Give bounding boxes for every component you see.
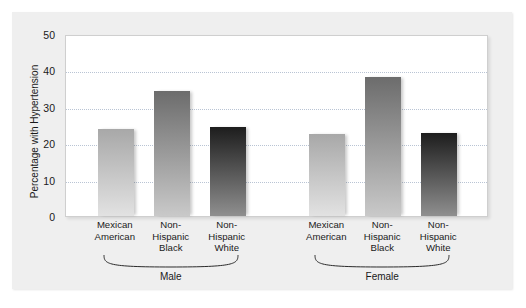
category-label: MexicanAmerican: [87, 219, 143, 242]
y-axis: 01020304050: [12, 35, 60, 217]
bar-female-mexican-american: [309, 134, 345, 216]
bar-female-non-hispanic-black: [365, 77, 401, 216]
category-label: MexicanAmerican: [298, 219, 354, 242]
bar-male-non-hispanic-white: [210, 127, 246, 216]
category-label: Non-HispanicWhite: [199, 219, 255, 254]
y-axis-tick-label: 20: [43, 138, 55, 150]
chart-figure: Percentage with Hypertension 01020304050…: [12, 12, 512, 289]
bar-female-non-hispanic-white: [421, 133, 457, 216]
y-axis-tick-label: 10: [43, 175, 55, 187]
y-axis-tick-label: 40: [43, 65, 55, 77]
group-name: Male: [103, 271, 239, 282]
gridline: [66, 109, 487, 110]
category-label: Non-HispanicWhite: [410, 219, 466, 254]
category-label: Non-HispanicBlack: [354, 219, 410, 254]
group-brace-icon: [314, 255, 450, 269]
y-axis-tick-label: 50: [43, 29, 55, 41]
plot-frame: [65, 35, 488, 217]
group-name: Female: [314, 271, 450, 282]
bar-male-mexican-american: [98, 129, 134, 216]
y-axis-tick-label: 0: [49, 211, 55, 223]
group-brace-icon: [103, 255, 239, 269]
bar-male-non-hispanic-black: [154, 91, 190, 216]
plot-area: [66, 36, 487, 216]
gridline: [66, 72, 487, 73]
x-axis-group-labels: MaleFemale: [65, 255, 488, 289]
category-label: Non-HispanicBlack: [143, 219, 199, 254]
x-axis-category-labels: MexicanAmericanNon-HispanicBlackNon-Hisp…: [65, 219, 488, 259]
y-axis-tick-label: 30: [43, 102, 55, 114]
